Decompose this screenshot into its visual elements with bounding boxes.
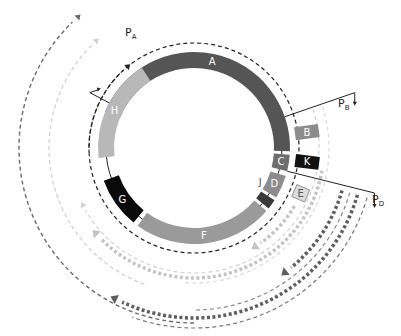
- PD-dark-thin-2-arc: [194, 193, 350, 310]
- gene-label-D: D: [271, 178, 279, 189]
- arrowhead-icon: [81, 202, 87, 208]
- arrowhead-icon: [353, 102, 357, 106]
- arrowhead-icon: [93, 230, 101, 238]
- gene-ring: ACDFGH: [98, 52, 290, 244]
- arrowhead-icon: [281, 267, 290, 275]
- operon-ring-diagram: ACDFGH BKE PAPBPD J: [0, 0, 401, 336]
- inner-dashed-circle-arc: [89, 43, 299, 253]
- PD-dark-thick-1-arc: [291, 190, 342, 267]
- gene-segment-H: [98, 67, 150, 158]
- gene-label-K: K: [304, 156, 311, 167]
- arrowhead-icon: [251, 241, 260, 249]
- gene-label-B: B: [303, 127, 310, 138]
- promoter-label-PD: PD: [372, 193, 384, 208]
- gene-label-G: G: [118, 194, 126, 205]
- promoter-label-PB: PB: [338, 97, 350, 112]
- gene-label-A: A: [209, 56, 216, 67]
- promoters: PAPBPD: [90, 26, 384, 208]
- gene-j-label: J: [258, 178, 261, 187]
- gene-label-C: C: [277, 156, 284, 167]
- PD-dark-thick-2-arc: [122, 195, 357, 318]
- gene-label-F: F: [201, 230, 207, 241]
- arrowhead-icon: [74, 14, 80, 20]
- gene-label-H: H: [111, 105, 119, 116]
- outer-gene-boxes: BKE: [292, 124, 320, 202]
- arrowhead-icon: [93, 38, 99, 44]
- arrowhead-icon: [97, 88, 101, 92]
- promoter-label-PA: PA: [125, 26, 137, 41]
- PB-light-thick-arc: [100, 171, 322, 278]
- arrowhead-icon: [124, 64, 130, 70]
- promoter-PB: PB: [285, 93, 357, 117]
- gene-segment-A: [105, 52, 290, 151]
- gene-label-E: E: [298, 188, 304, 199]
